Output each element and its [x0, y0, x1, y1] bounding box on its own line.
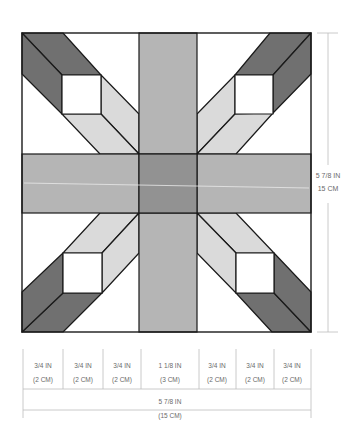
white-square	[236, 253, 274, 293]
total-width-imperial: 5 7/8 IN	[159, 398, 182, 405]
total-width-metric: (15 CM)	[158, 412, 181, 420]
col-6-imperial: 3/4 IN	[246, 362, 264, 369]
col-2-metric: (2 CM)	[73, 376, 93, 384]
col-4-metric: (3 CM)	[160, 376, 180, 384]
col-1-metric: (2 CM)	[33, 376, 53, 384]
col-5-metric: (2 CM)	[207, 376, 227, 384]
col-6-metric: (2 CM)	[245, 376, 265, 384]
horizontal-sashing-right	[197, 154, 311, 213]
col-4-imperial: 1 1/8 IN	[159, 362, 182, 369]
center-square	[139, 154, 197, 213]
col-7-metric: (2 CM)	[282, 376, 302, 384]
column-dimension-dividers	[23, 349, 311, 418]
col-2-imperial: 3/4 IN	[74, 362, 92, 369]
col-3-metric: (2 CM)	[112, 376, 132, 384]
col-1-imperial: 3/4 IN	[34, 362, 52, 369]
col-3-imperial: 3/4 IN	[113, 362, 131, 369]
white-square	[235, 75, 273, 114]
vertical-sashing-bottom	[139, 213, 197, 332]
vertical-dimension	[317, 33, 338, 332]
column-dimension-labels: 3/4 IN (2 CM) 3/4 IN (2 CM) 3/4 IN (2 CM…	[33, 362, 302, 384]
vertical-sashing-top	[139, 33, 197, 154]
col-7-imperial: 3/4 IN	[283, 362, 301, 369]
col-5-imperial: 3/4 IN	[208, 362, 226, 369]
vertical-dim-metric: 15 CM	[318, 185, 339, 192]
white-square	[63, 253, 102, 293]
white-square	[62, 75, 101, 114]
quilt-block-diagram: 5 7/8 IN 15 CM 3/4 IN (2 CM) 3/4 IN (2 C…	[0, 0, 362, 425]
vertical-dim-imperial: 5 7/8 IN	[316, 172, 341, 179]
